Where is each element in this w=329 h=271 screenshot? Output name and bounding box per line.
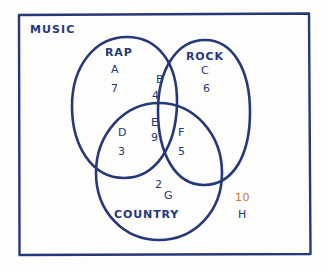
set-label-rock: ROCK — [186, 50, 224, 63]
set-label-country: COUNTRY — [114, 208, 179, 221]
region-letter-a: A — [111, 63, 119, 76]
region-letter-c: C — [201, 64, 209, 77]
region-letter-b: B — [156, 73, 164, 86]
region-count-g: 2 — [155, 178, 162, 191]
region-count-d: 3 — [118, 145, 125, 158]
universe-label: MUSIC — [30, 23, 75, 36]
region-letter-g: G — [164, 189, 173, 202]
venn-diagram-canvas: MUSIC RAP ROCK COUNTRY A 7 B 4 C 6 D 3 E… — [0, 0, 329, 271]
region-count-c: 6 — [203, 82, 210, 95]
region-count-e: 9 — [151, 131, 158, 144]
set-label-rap: RAP — [105, 46, 133, 59]
region-count-a: 7 — [111, 82, 118, 95]
region-letter-h: H — [238, 208, 247, 221]
region-letter-e: E — [151, 116, 158, 129]
region-count-f: 5 — [178, 145, 185, 158]
region-count-b: 4 — [152, 89, 159, 102]
venn-diagram-strokes — [0, 0, 329, 271]
region-count-h: 10 — [235, 191, 250, 204]
region-letter-d: D — [118, 126, 127, 139]
region-letter-f: F — [178, 126, 185, 139]
